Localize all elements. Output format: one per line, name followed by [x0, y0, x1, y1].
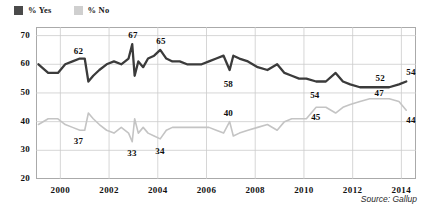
- data-value-label-no: 33: [127, 148, 136, 158]
- series-line-yes: [38, 44, 406, 87]
- data-value-label-yes: 62: [74, 46, 83, 56]
- x-axis-tick-label: 2000: [40, 185, 80, 195]
- data-value-label-yes: 54: [310, 90, 319, 100]
- x-axis-tick-label: 2006: [187, 185, 227, 195]
- data-value-label-yes: 65: [156, 36, 165, 46]
- gridlines: [36, 27, 416, 179]
- data-value-label-yes: 58: [224, 79, 233, 89]
- data-value-label-no: 37: [74, 136, 83, 146]
- x-axis-tick-label: 2004: [138, 185, 178, 195]
- y-axis-tick-label: 40: [8, 116, 30, 126]
- y-axis-tick-label: 70: [8, 30, 30, 40]
- series-line-no: [38, 99, 406, 142]
- data-value-label-no: 34: [155, 146, 164, 156]
- data-value-label-no: 45: [311, 112, 320, 122]
- data-value-label-yes: 52: [375, 73, 384, 83]
- y-axis-tick-label: 50: [8, 87, 30, 97]
- x-axis-tick-label: 2002: [89, 185, 129, 195]
- x-axis-tick-label: 2010: [284, 185, 324, 195]
- data-value-label-yes: 67: [128, 30, 137, 40]
- data-value-label-no: 40: [224, 108, 233, 118]
- data-value-label-yes: 54: [406, 67, 415, 77]
- data-value-label-no: 47: [374, 88, 383, 98]
- y-axis-tick-label: 30: [8, 144, 30, 154]
- chart-root: % Yes % No 20304050607020002002200420062…: [0, 0, 428, 217]
- data-value-label-no: 44: [406, 115, 415, 125]
- x-axis-tick-label: 2008: [235, 185, 275, 195]
- y-axis-tick-label: 60: [8, 58, 30, 68]
- y-axis-tick-label: 20: [8, 173, 30, 183]
- source-note: Source: Gallup: [361, 194, 417, 204]
